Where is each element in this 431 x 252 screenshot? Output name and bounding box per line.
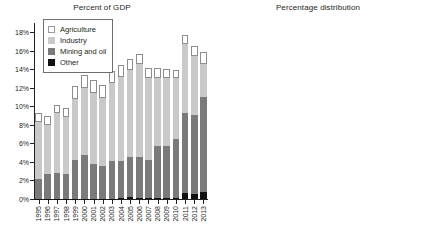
y-axis-tick-label: 0% — [19, 196, 29, 203]
x-axis-tick-label: 2004 — [118, 206, 125, 222]
chart-title-left: Percent of GDP — [12, 3, 192, 12]
bar-2005[interactable] — [127, 23, 134, 199]
industry-swatch-icon — [48, 37, 55, 44]
bar-segment-industry — [44, 125, 51, 174]
x-axis-tick — [130, 200, 131, 204]
bar-segment-other — [99, 199, 106, 200]
bar-segment-agriculture — [182, 35, 189, 44]
bar-segment-agriculture — [90, 80, 97, 93]
bar-segment-industry — [72, 99, 79, 160]
x-axis-tick — [66, 200, 67, 204]
legend-item-label: Mining and oil — [60, 48, 106, 56]
chart-title-right: Percentage distribution — [223, 3, 413, 12]
bar-2012[interactable] — [191, 23, 198, 199]
legend-item-agriculture[interactable]: Agriculture — [48, 24, 106, 35]
x-axis-tick — [57, 200, 58, 204]
x-axis-tick-label: 2000 — [81, 206, 88, 222]
bar-segment-other — [118, 198, 125, 199]
x-axis-tick-label: 2003 — [108, 206, 115, 222]
figure-root: Percent of GDP 0%2%4%6%8%10%12%14%16%18%… — [0, 0, 431, 252]
bar-segment-industry — [63, 117, 70, 174]
bar-segment-agriculture — [127, 59, 134, 70]
x-axis-tick — [194, 200, 195, 204]
bar-segment-agriculture — [136, 54, 143, 65]
bar-segment-other — [109, 199, 116, 200]
agriculture-swatch-icon — [48, 26, 55, 33]
bar-segment-agriculture — [191, 46, 198, 56]
bar-segment-other — [127, 197, 134, 199]
x-axis-tick-label: 2013 — [200, 206, 207, 222]
bar-segment-other — [154, 198, 161, 199]
x-axis-tick-label: 2005 — [127, 206, 134, 222]
chart-legend: AgricultureIndustryMining and oilOther — [43, 19, 113, 73]
bar-segment-agriculture — [72, 86, 79, 99]
bar-segment-industry — [118, 77, 125, 161]
bar-segment-industry — [81, 88, 88, 154]
bar-segment-industry — [191, 56, 198, 115]
bar-segment-agriculture — [63, 108, 70, 117]
x-axis-tick-label: 1997 — [53, 206, 60, 222]
bar-2004[interactable] — [118, 23, 125, 199]
bar-segment-industry — [90, 93, 97, 164]
bar-segment-other — [90, 199, 97, 200]
bar-segment-mining — [35, 179, 42, 199]
bar-segment-industry — [109, 83, 116, 161]
bar-segment-other — [136, 198, 143, 199]
x-axis-tick — [48, 200, 49, 204]
y-axis-tick — [30, 125, 34, 126]
bar-segment-industry — [200, 64, 207, 96]
y-axis-tick-label: 6% — [19, 140, 29, 147]
bar-segment-other — [191, 194, 198, 199]
bar-segment-other — [200, 192, 207, 199]
bar-segment-mining — [99, 166, 106, 198]
bar-segment-mining — [109, 161, 116, 199]
y-axis-tick-label: 16% — [15, 47, 29, 54]
bar-segment-mining — [163, 146, 170, 198]
bar-2006[interactable] — [136, 23, 143, 199]
bar-segment-agriculture — [145, 68, 152, 77]
bar-2013[interactable] — [200, 23, 207, 199]
bar-segment-other — [44, 199, 51, 200]
x-axis-tick-label: 2010 — [172, 206, 179, 222]
bar-segment-other — [163, 198, 170, 199]
bar-segment-mining — [191, 115, 198, 194]
bar-segment-other — [72, 199, 79, 200]
bar-segment-agriculture — [154, 68, 161, 78]
bar-2010[interactable] — [173, 23, 180, 199]
x-axis-tick-label: 2009 — [163, 206, 170, 222]
bar-segment-other — [173, 198, 180, 199]
bar-segment-mining — [173, 139, 180, 198]
bar-segment-agriculture — [44, 116, 51, 125]
y-axis-tick — [30, 106, 34, 107]
legend-item-industry[interactable]: Industry — [48, 35, 106, 46]
bar-segment-industry — [182, 44, 189, 113]
bar-segment-industry — [127, 70, 134, 157]
bar-segment-mining — [54, 173, 61, 198]
bar-segment-mining — [63, 174, 70, 199]
legend-item-label: Other — [60, 59, 79, 67]
legend-item-label: Agriculture — [60, 26, 96, 34]
bar-2007[interactable] — [145, 23, 152, 199]
y-axis-tick-label: 18% — [15, 29, 29, 36]
other-swatch-icon — [48, 59, 55, 66]
legend-item-other[interactable]: Other — [48, 57, 106, 68]
legend-item-mining[interactable]: Mining and oil — [48, 46, 106, 57]
x-axis-tick — [112, 200, 113, 204]
x-axis-tick-label: 1995 — [35, 206, 42, 222]
x-axis-tick-label: 2011 — [182, 206, 189, 221]
x-axis-tick-label: 1996 — [44, 206, 51, 222]
bar-segment-other — [35, 199, 42, 200]
bar-2009[interactable] — [163, 23, 170, 199]
bar-2011[interactable] — [182, 23, 189, 199]
bar-segment-other — [81, 199, 88, 200]
y-axis-tick — [30, 162, 34, 163]
bar-1995[interactable] — [35, 23, 42, 199]
x-axis-tick — [139, 200, 140, 204]
bar-segment-other — [182, 193, 189, 199]
bar-segment-mining — [118, 161, 125, 198]
x-axis-tick-label: 2007 — [145, 206, 152, 222]
x-axis-tick-label: 2012 — [191, 206, 198, 222]
bar-2008[interactable] — [154, 23, 161, 199]
bar-segment-industry — [163, 78, 170, 146]
bar-segment-industry — [154, 78, 161, 147]
